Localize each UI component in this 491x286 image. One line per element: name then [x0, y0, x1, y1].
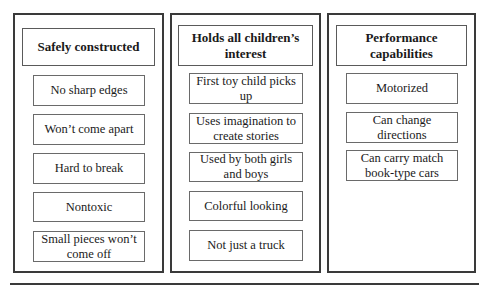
item-colorful-looking: Colorful looking — [189, 191, 303, 221]
column-header-holds-childrens-interest: Holds all children’s interest — [178, 25, 313, 66]
item-hard-to-break: Hard to break — [33, 153, 145, 184]
bottom-rule-divider — [10, 283, 479, 285]
item-can-carry-match-book-type-cars: Can carry match book-type cars — [346, 150, 458, 181]
item-wont-come-apart: Won’t come apart — [33, 114, 145, 145]
column-header-performance-capabilities: Performance capabilities — [336, 25, 467, 66]
item-nontoxic: Nontoxic — [33, 192, 145, 222]
item-uses-imagination: Uses imagination to create stories — [189, 113, 303, 144]
item-small-pieces-wont-come-off: Small pieces won’t come off — [33, 231, 145, 262]
item-not-just-a-truck: Not just a truck — [189, 230, 303, 261]
column-header-safely-constructed: Safely constructed — [22, 28, 155, 66]
item-used-by-girls-and-boys: Used by both girls and boys — [189, 152, 303, 182]
item-motorized: Motorized — [346, 73, 458, 104]
item-can-change-directions: Can change directions — [346, 112, 458, 143]
item-no-sharp-edges: No sharp edges — [33, 75, 145, 106]
item-first-toy-child-picks-up: First toy child picks up — [189, 73, 303, 104]
